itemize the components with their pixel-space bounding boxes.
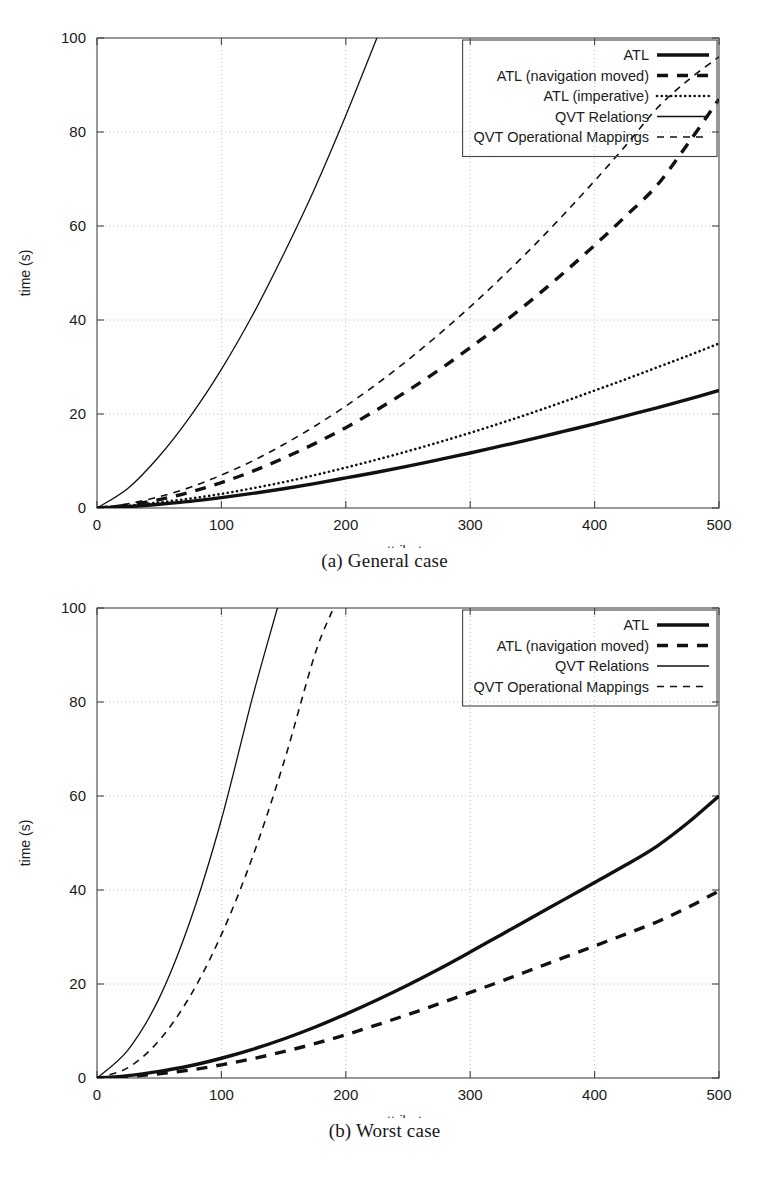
- figure-a-caption: (a) General case: [0, 550, 769, 572]
- x-axis-title: attributes: [379, 543, 437, 548]
- legend-label: ATL: [623, 47, 649, 63]
- series-line-atl-imperative: [97, 344, 719, 509]
- plot-area-b: 0204060801000100200300400500attributesti…: [0, 570, 769, 1118]
- x-tick-label: 0: [93, 1086, 101, 1103]
- legend: ATLATL (navigation moved)ATL (imperative…: [463, 40, 717, 157]
- legend-label: ATL: [623, 617, 649, 633]
- y-tick-label: 40: [69, 881, 86, 898]
- y-axis-title: time (s): [17, 820, 33, 867]
- y-tick-label: 20: [69, 975, 86, 992]
- x-tick-label: 300: [458, 516, 483, 533]
- y-tick-label: 60: [69, 217, 86, 234]
- x-tick-label: 100: [209, 1086, 234, 1103]
- series-line-atl: [97, 391, 719, 509]
- legend-label: ATL (navigation moved): [497, 638, 649, 654]
- x-tick-label: 500: [706, 516, 731, 533]
- series-line-atl-navigation-moved: [97, 99, 719, 508]
- legend-label: QVT Relations: [555, 658, 649, 674]
- y-tick-label: 20: [69, 405, 86, 422]
- x-tick-label: 300: [458, 1086, 483, 1103]
- x-tick-label: 200: [333, 516, 358, 533]
- figure-b-caption: (b) Worst case: [0, 1120, 769, 1142]
- y-tick-label: 100: [61, 29, 86, 46]
- x-tick-label: 0: [93, 516, 101, 533]
- series-line-qvt-relations: [97, 0, 405, 508]
- series-line-qvt-operational-mappings: [97, 570, 350, 1078]
- figure-general-case: 0204060801000100200300400500attributesti…: [0, 0, 769, 595]
- legend-label: QVT Relations: [555, 109, 649, 125]
- y-tick-label: 0: [78, 499, 86, 516]
- chart-a-svg: 0204060801000100200300400500attributesti…: [0, 0, 769, 548]
- y-tick-label: 80: [69, 693, 86, 710]
- x-tick-label: 200: [333, 1086, 358, 1103]
- y-tick-label: 100: [61, 599, 86, 616]
- x-tick-label: 400: [582, 1086, 607, 1103]
- legend-label: ATL (navigation moved): [497, 68, 649, 84]
- y-tick-label: 60: [69, 787, 86, 804]
- legend-label: QVT Operational Mappings: [474, 679, 649, 695]
- legend-label: ATL (imperative): [543, 88, 649, 104]
- y-tick-label: 40: [69, 311, 86, 328]
- y-tick-label: 80: [69, 123, 86, 140]
- x-axis-title: attributes: [379, 1113, 437, 1118]
- legend-label: QVT Operational Mappings: [474, 129, 649, 145]
- legend: ATLATL (navigation moved)QVT RelationsQV…: [463, 610, 717, 706]
- figure-worst-case: 0204060801000100200300400500attributesti…: [0, 570, 769, 1189]
- y-axis-title: time (s): [17, 250, 33, 297]
- y-tick-label: 0: [78, 1069, 86, 1086]
- series-line-atl: [97, 796, 719, 1078]
- x-tick-label: 500: [706, 1086, 731, 1103]
- x-tick-label: 400: [582, 516, 607, 533]
- series-line-qvt-relations: [97, 570, 300, 1078]
- x-tick-label: 100: [209, 516, 234, 533]
- plot-area-a: 0204060801000100200300400500attributesti…: [0, 0, 769, 548]
- chart-b-svg: 0204060801000100200300400500attributesti…: [0, 570, 769, 1118]
